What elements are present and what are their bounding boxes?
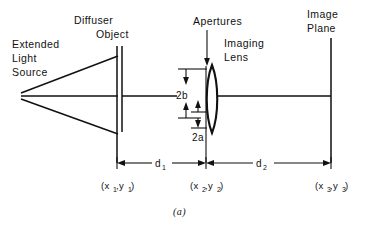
d2-label: d — [256, 158, 262, 169]
d2-right-arrowhead — [323, 160, 331, 166]
diffuser-object-labels: Diffuser Object — [74, 14, 129, 40]
diffuser-object-planes-group — [117, 46, 122, 163]
aperture-2b-upper-arrowhead — [183, 77, 189, 85]
d1-label-subscript: 1 — [162, 164, 166, 171]
aperture-2a-upper-arrowhead — [195, 100, 201, 108]
d1-label: d — [155, 158, 161, 169]
optical-system-figure: Extended Light Source Diffuser Object — [0, 0, 375, 226]
diffuser-label: Diffuser — [74, 14, 113, 26]
imaging-lens-label-line2: Lens — [224, 51, 248, 63]
distance-d2-group: d 2 — [206, 157, 331, 171]
d1-left-arrowhead — [117, 160, 125, 166]
image-plane-label-line1: Image — [307, 8, 338, 20]
coord2-comma-y: ,y — [205, 180, 213, 191]
extended-light-source-label: Extended Light Source — [12, 38, 60, 78]
image-plane-group: Image Plane — [307, 8, 338, 163]
coordinate-label-plane2: (x 2 ,y 2 ) — [190, 180, 224, 193]
imaging-lens-shape — [207, 65, 218, 133]
d2-left-arrowhead — [206, 160, 214, 166]
coord3-open: (x — [315, 180, 324, 191]
d2-label-subscript: 2 — [263, 164, 267, 171]
aperture-2b-label: 2b — [176, 90, 188, 101]
apertures-label: Apertures — [193, 15, 242, 27]
aperture-2b-lower-arrowhead — [183, 102, 189, 110]
coord3-comma-y: ,y — [330, 180, 338, 191]
apertures-leader-arrowhead — [204, 58, 210, 66]
coord1-close: ) — [131, 180, 135, 191]
aperture-2a-dimension-group: 2a — [191, 100, 207, 143]
object-label: Object — [96, 28, 129, 40]
aperture-2a-lower-arrowhead — [195, 120, 201, 128]
distance-d1-group: d 1 — [117, 157, 206, 171]
aperture-2b-dimension-group: 2b — [176, 69, 207, 118]
panel-label: (a) — [173, 206, 186, 218]
source-label-line3: Source — [12, 66, 48, 78]
optical-diagram-canvas: Extended Light Source Diffuser Object — [0, 0, 375, 226]
aperture-2a-label: 2a — [192, 132, 204, 143]
coord1-comma-y: ,y — [116, 180, 124, 191]
imaging-lens-label-group: Imaging Lens — [224, 37, 264, 63]
coordinate-label-plane1: (x 1 ,y 1 ) — [101, 180, 135, 193]
coordinate-label-plane3: (x 3 ,y 3 ) — [315, 180, 349, 193]
imaging-lens-label-line1: Imaging — [224, 37, 264, 49]
source-label-line2: Light — [12, 52, 37, 64]
image-plane-label-line2: Plane — [307, 22, 336, 34]
source-label-line1: Extended — [12, 38, 60, 50]
imaging-lens-group — [207, 65, 218, 133]
coord2-close: ) — [220, 180, 224, 191]
coord3-close: ) — [345, 180, 349, 191]
d1-right-arrowhead — [198, 160, 206, 166]
coord2-open: (x — [190, 180, 199, 191]
coord1-open: (x — [101, 180, 110, 191]
source-lower-ray — [21, 99, 118, 134]
